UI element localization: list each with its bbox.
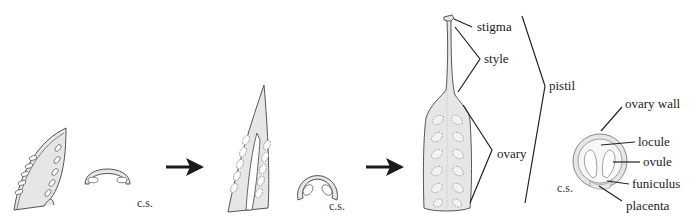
- label-pistil: pistil: [549, 78, 575, 93]
- label-locule: locule: [638, 134, 670, 149]
- label-placenta: placenta: [626, 198, 670, 213]
- label-ovule: ovule: [643, 154, 672, 169]
- stage-1-carpel: [14, 128, 66, 210]
- cs-label-1: c.s.: [137, 196, 153, 210]
- label-style: style: [484, 51, 509, 66]
- cs-label-3: c.s.: [557, 181, 573, 195]
- stage-3-pistil: [423, 15, 471, 211]
- label-stigma: stigma: [477, 19, 512, 34]
- stage-2-carpel: [228, 85, 272, 212]
- stage-2-cross-section: [298, 176, 338, 200]
- carpel-evolution-diagram: c.s. c.s.: [0, 0, 697, 224]
- arrow-1-icon: [166, 158, 204, 176]
- label-ovary-wall: ovary wall: [625, 96, 681, 111]
- label-ovary: ovary: [497, 146, 527, 161]
- stage-1-cross-section: [85, 169, 130, 184]
- cs-label-2: c.s.: [329, 199, 345, 213]
- arrow-2-icon: [366, 158, 404, 176]
- label-funiculus: funiculus: [632, 176, 680, 191]
